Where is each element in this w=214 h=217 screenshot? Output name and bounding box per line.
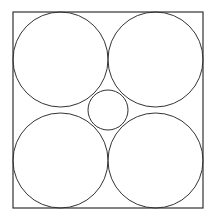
bounding-square [13, 12, 203, 208]
large-circle-top-right [108, 12, 203, 107]
diagram-canvas [0, 0, 214, 217]
small-center-circle [88, 90, 128, 130]
large-circle-bottom-left [13, 113, 108, 208]
large-circle-bottom-right [108, 113, 203, 208]
large-circle-top-left [13, 12, 108, 107]
